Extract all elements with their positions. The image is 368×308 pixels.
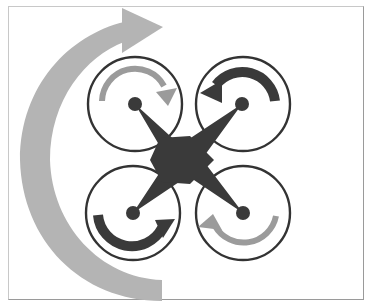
quadcopter-diagram [0,0,368,308]
motor-hub-rear-right [236,206,250,220]
motor-hub-front-right [235,97,249,111]
yaw-arrowhead-icon [122,8,163,53]
motor-hub-rear-left [126,206,140,220]
motor-hub-front-left [128,97,142,111]
quadcopter-body [126,97,250,220]
